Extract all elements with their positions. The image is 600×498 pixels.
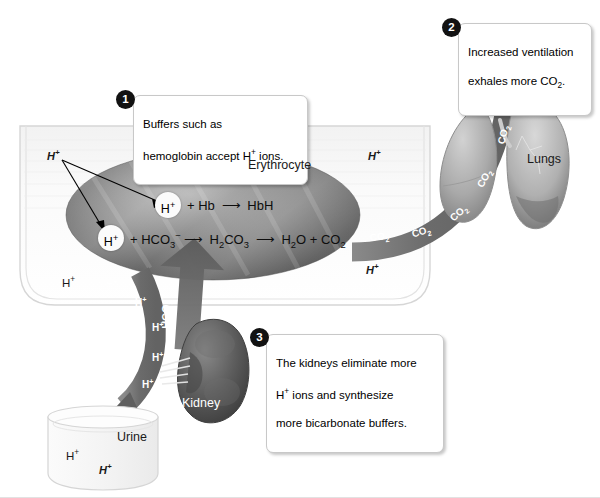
- equation-bicarbonate: + HCO3− ⟶ H2CO3 ⟶ H2O + CO2: [130, 231, 346, 250]
- callout-3-line-2: H+ ions and synthesize: [276, 385, 434, 402]
- h-ion-bubble-bicarb: H+H+: [98, 225, 124, 251]
- equation-hemoglobin: + Hb ⟶ HbH: [187, 198, 273, 213]
- callout-badge-3: 3: [250, 328, 269, 347]
- kidney-label: Kidney: [182, 396, 220, 410]
- urine-h-ion-2: H+: [99, 462, 112, 476]
- diagram-canvas: 1 Buffers such as hemoglobin accept H+ i…: [0, 0, 600, 498]
- lungs-label: Lungs: [527, 152, 561, 166]
- callout-box-3: The kidneys eliminate more H+ ions and s…: [266, 334, 444, 453]
- flow-co2-1: CO2: [369, 230, 390, 247]
- flow-h-ion-2: H+: [135, 295, 146, 308]
- plasma-h-ion-2: H+: [368, 148, 381, 162]
- bicarbonate-flow-label: HCO3−: [158, 295, 175, 328]
- flow-h-ion-4: H+: [152, 350, 163, 363]
- callout-2-line-1: Increased ventilation: [468, 45, 582, 60]
- callout-3-line-1: The kidneys eliminate more: [276, 356, 434, 371]
- callout-badge-1: 1: [116, 90, 135, 109]
- plasma-h-ion-3: H+: [366, 262, 379, 276]
- urine-beaker: [48, 406, 158, 490]
- urine-label: Urine: [117, 430, 147, 444]
- erythrocyte-label: Erythrocyte: [248, 158, 311, 172]
- flow-h-ion-5: H+: [142, 377, 153, 390]
- plasma-h-ion-1: H+: [47, 148, 60, 162]
- callout-3-line-3: more bicarbonate buffers.: [276, 416, 434, 431]
- urine-h-ion-1: H+: [66, 448, 79, 462]
- callout-2-line-2: exhales more CO2.: [468, 74, 582, 94]
- callout-badge-2: 2: [442, 18, 461, 37]
- flow-h-ion-1: H+: [106, 277, 117, 290]
- callout-1-line-1: Buffers such as: [143, 117, 298, 132]
- plasma-h-ion-4: H+: [62, 275, 75, 289]
- callout-box-2: Increased ventilation exhales more CO2.: [458, 23, 592, 116]
- h-ion-bubble-hb: H+H+: [155, 192, 181, 218]
